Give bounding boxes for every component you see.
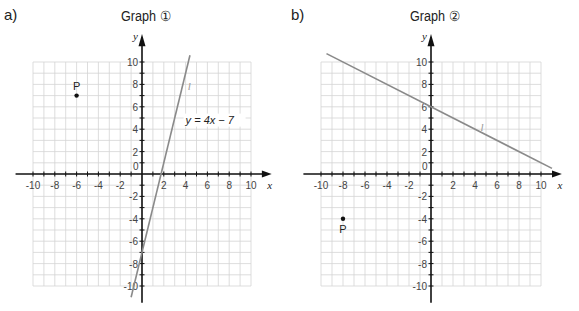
x-tick-label: 6 bbox=[205, 180, 211, 191]
y-tick-label: -8 bbox=[129, 259, 138, 270]
y-axis-label: y bbox=[132, 30, 138, 42]
point-label: P bbox=[339, 223, 346, 235]
y-tick-label: 4 bbox=[421, 124, 427, 135]
y-tick-label: 2 bbox=[421, 147, 427, 158]
y-arrow-icon bbox=[428, 34, 435, 46]
x-tick-label: -2 bbox=[405, 180, 414, 191]
x-tick-label: 4 bbox=[183, 180, 189, 191]
x-tick-label: -10 bbox=[314, 180, 329, 191]
y-tick-label: 4 bbox=[132, 124, 138, 135]
x-tick-label: 2 bbox=[161, 180, 167, 191]
y-tick-label: 10 bbox=[127, 57, 139, 68]
axes: -10-8-6-4-20246810-10-8-6-4-2246810xy bbox=[16, 30, 273, 303]
graph-1: -10-8-6-4-20246810-10-8-6-4-2246810xyly … bbox=[16, 30, 273, 303]
x-arrow-icon bbox=[552, 171, 562, 178]
x-tick-label: 8 bbox=[516, 180, 522, 191]
graphs-canvas: -10-8-6-4-20246810-10-8-6-4-2246810xyly … bbox=[0, 0, 579, 311]
origin-label: 0 bbox=[133, 161, 139, 172]
x-tick-label: 10 bbox=[535, 180, 547, 191]
y-tick-label: 8 bbox=[421, 79, 427, 90]
y-tick-label: -6 bbox=[129, 236, 138, 247]
graph-2: -10-8-6-4-20246810-10-8-6-4-2246810xylP bbox=[303, 30, 562, 303]
x-tick-label: 10 bbox=[245, 180, 257, 191]
y-tick-label: -2 bbox=[129, 191, 138, 202]
point-label: P bbox=[73, 80, 80, 92]
x-arrow-icon bbox=[262, 171, 272, 178]
y-tick-label: -2 bbox=[418, 191, 427, 202]
y-arrow-icon bbox=[139, 34, 146, 46]
y-tick-label: 8 bbox=[132, 79, 138, 90]
equation-label: y = 4x − 7 bbox=[185, 114, 235, 126]
x-tick-label: -4 bbox=[94, 180, 103, 191]
x-tick-label: 4 bbox=[472, 180, 478, 191]
y-axis-label: y bbox=[421, 30, 427, 42]
point-p bbox=[74, 93, 78, 97]
y-tick-label: -10 bbox=[413, 281, 428, 292]
y-tick-label: -6 bbox=[418, 236, 427, 247]
axes: -10-8-6-4-20246810-10-8-6-4-2246810xy bbox=[303, 30, 562, 303]
x-tick-label: -8 bbox=[50, 180, 59, 191]
y-tick-label: 10 bbox=[416, 57, 428, 68]
x-tick-label: -10 bbox=[26, 180, 41, 191]
line-l bbox=[131, 55, 190, 297]
y-tick-label: -8 bbox=[418, 259, 427, 270]
line-name-label: l bbox=[481, 121, 484, 133]
origin-label: 0 bbox=[422, 161, 428, 172]
x-tick-label: 2 bbox=[450, 180, 456, 191]
x-tick-label: -6 bbox=[361, 180, 370, 191]
y-tick-label: 2 bbox=[132, 147, 138, 158]
line-l bbox=[327, 54, 553, 169]
y-tick-label: -4 bbox=[418, 214, 427, 225]
y-tick-label: -10 bbox=[124, 281, 139, 292]
x-tick-label: -4 bbox=[383, 180, 392, 191]
y-tick-label: 6 bbox=[132, 102, 138, 113]
x-tick-label: -2 bbox=[116, 180, 125, 191]
x-tick-label: 8 bbox=[226, 180, 232, 191]
x-axis-label: x bbox=[557, 179, 563, 191]
x-tick-label: 6 bbox=[494, 180, 500, 191]
y-tick-label: -4 bbox=[129, 214, 138, 225]
x-tick-label: -6 bbox=[72, 180, 81, 191]
x-tick-label: -8 bbox=[339, 180, 348, 191]
x-axis-label: x bbox=[266, 179, 272, 191]
line-name-label: l bbox=[188, 80, 191, 92]
point-p bbox=[341, 217, 345, 221]
